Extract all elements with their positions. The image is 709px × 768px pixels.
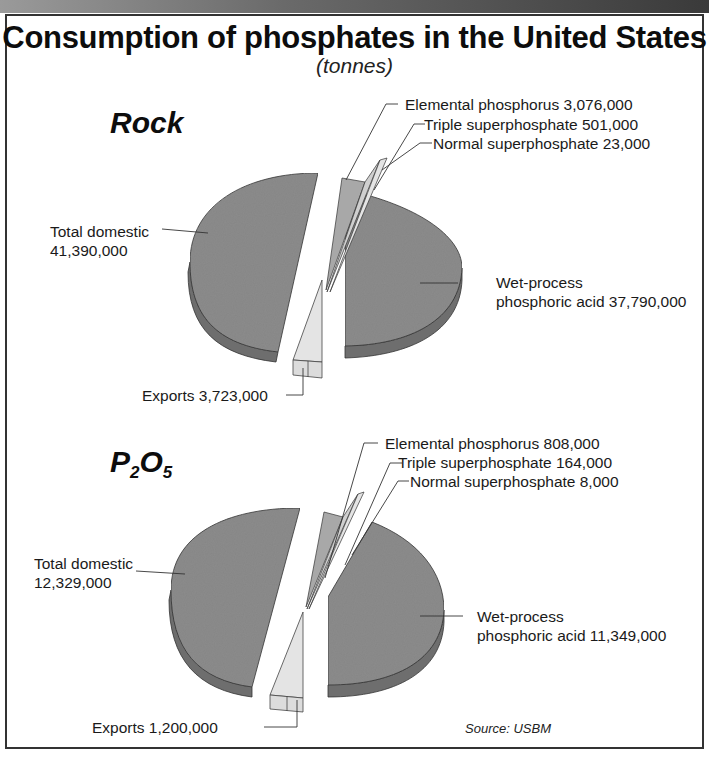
rock-label-triple-superphosphate: Triple superphosphate 501,000 — [424, 115, 638, 134]
p2o5-wet-process-value: phosphoric acid 11,349,000 — [477, 626, 666, 645]
source-note: Source: USBM — [465, 721, 551, 736]
rock-slice-exports — [293, 280, 322, 362]
rock-wet-process-value: phosphoric acid 37,790,000 — [496, 292, 686, 311]
p2o5-slice-exports — [270, 612, 303, 698]
rock-label-elemental-phosphorus: Elemental phosphorus 3,076,000 — [405, 95, 633, 114]
rock-label-normal-superphosphate: Normal superphosphate 23,000 — [433, 134, 650, 153]
p2o5-pie — [169, 492, 444, 712]
rock-total-domestic-value: 41,390,000 — [50, 241, 149, 260]
rock-wet-process-title: Wet-process — [496, 273, 686, 292]
p2o5-label-total-domestic: Total domestic 12,329,000 — [34, 554, 133, 592]
rock-pie — [188, 158, 462, 378]
rock-label-total-domestic: Total domestic 41,390,000 — [50, 222, 149, 260]
p2o5-total-domestic-title: Total domestic — [34, 554, 133, 573]
rock-label-exports: Exports 3,723,000 — [142, 386, 268, 405]
rock-total-domestic-title: Total domestic — [50, 222, 149, 241]
p2o5-label-exports: Exports 1,200,000 — [92, 718, 218, 737]
p2o5-label-elemental-phosphorus: Elemental phosphorus 808,000 — [385, 434, 600, 453]
p2o5-total-domestic-value: 12,329,000 — [34, 573, 133, 592]
p2o5-wet-process-title: Wet-process — [477, 607, 666, 626]
p2o5-label-triple-superphosphate: Triple superphosphate 164,000 — [398, 453, 612, 472]
p2o5-label-normal-superphosphate: Normal superphosphate 8,000 — [410, 472, 619, 491]
rock-label-wet-process: Wet-process phosphoric acid 37,790,000 — [496, 273, 686, 311]
p2o5-label-wet-process: Wet-process phosphoric acid 11,349,000 — [477, 607, 666, 645]
